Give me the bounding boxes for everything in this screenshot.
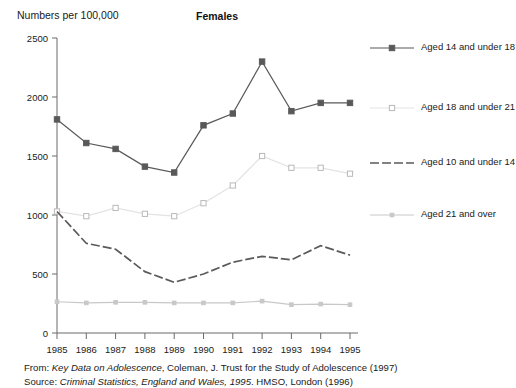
data-point-marker [142, 211, 147, 216]
data-point-marker [260, 153, 265, 158]
data-point-marker [172, 170, 177, 175]
data-point-marker [230, 111, 235, 116]
svg-text:1990: 1990 [193, 344, 214, 355]
footnote-source-line-2: Source: Criminal Statistics, England and… [24, 375, 494, 388]
data-point-marker [348, 303, 352, 307]
legend-swatch-icon [370, 100, 414, 112]
data-point-marker [84, 140, 89, 145]
data-point-marker [85, 301, 89, 305]
svg-text:1988: 1988 [134, 344, 155, 355]
footnote-2-prefix: Source: [24, 376, 60, 387]
chart-page: Numbers per 100,000 Females 050010001500… [0, 0, 516, 388]
data-point-marker [201, 123, 206, 128]
series-line [57, 156, 350, 216]
data-point-marker [143, 301, 147, 305]
legend-item-1[interactable]: Aged 14 and under 18 [370, 38, 515, 54]
data-point-marker [318, 165, 323, 170]
x-axis-ticks: 1985198619871988198919901991199219931994… [46, 333, 360, 355]
data-point-marker [54, 117, 59, 122]
data-point-marker [172, 214, 177, 219]
data-point-marker [319, 302, 323, 306]
svg-text:1986: 1986 [76, 344, 97, 355]
chart-axes [57, 38, 358, 333]
svg-text:1992: 1992 [252, 344, 273, 355]
svg-text:500: 500 [32, 269, 48, 280]
footnote-source-line-1: From: Key Data on Adolescence, Coleman, … [24, 361, 494, 375]
svg-text:2000: 2000 [27, 92, 48, 103]
data-point-marker [289, 108, 294, 113]
series-3 [57, 211, 350, 282]
footnote-block: From: Key Data on Adolescence, Coleman, … [24, 361, 494, 388]
svg-text:0: 0 [43, 328, 48, 339]
svg-text:2500: 2500 [27, 33, 48, 44]
data-point-marker [113, 146, 118, 151]
legend-item-2[interactable]: Aged 18 and under 21 [370, 98, 515, 114]
series-2 [54, 153, 352, 218]
footnote-1-prefix: From: [24, 362, 52, 373]
legend-label: Aged 10 and under 14 [421, 156, 515, 167]
data-point-marker [347, 171, 352, 176]
svg-text:1989: 1989 [164, 344, 185, 355]
series-4 [55, 299, 352, 306]
data-point-marker [142, 164, 147, 169]
series-line [57, 211, 350, 282]
data-point-marker [172, 301, 176, 305]
legend-swatch-icon [370, 207, 414, 219]
svg-text:1993: 1993 [281, 344, 302, 355]
legend-item-4[interactable]: Aged 21 and over [370, 205, 496, 221]
data-point-marker [259, 59, 264, 64]
svg-text:1500: 1500 [27, 151, 48, 162]
legend-label: Aged 14 and under 18 [421, 41, 515, 52]
data-point-marker [202, 301, 206, 305]
data-point-marker [84, 214, 89, 219]
footnote-2-title: Criminal Statistics, England and Wales, … [60, 376, 251, 387]
data-point-marker [230, 183, 235, 188]
footnote-1-suffix: , Coleman, J. Trust for the Study of Ado… [162, 362, 398, 373]
legend-label: Aged 18 and under 21 [421, 101, 515, 112]
legend-swatch-icon [370, 155, 414, 167]
data-point-marker [289, 165, 294, 170]
data-point-marker [347, 100, 352, 105]
legend-label: Aged 21 and over [421, 208, 496, 219]
series-line [57, 62, 350, 173]
series-1 [54, 59, 352, 175]
legend-swatch-icon [370, 40, 414, 52]
line-chart-plot: 0500100015002000250019851986198719881989… [0, 0, 516, 388]
data-point-marker [231, 301, 235, 305]
data-point-marker [201, 201, 206, 206]
svg-text:1995: 1995 [339, 344, 360, 355]
data-point-marker [290, 303, 294, 307]
data-point-marker [260, 299, 264, 303]
svg-text:1000: 1000 [27, 210, 48, 221]
legend-item-3[interactable]: Aged 10 and under 14 [370, 153, 515, 169]
data-point-marker [114, 301, 118, 305]
svg-text:1991: 1991 [222, 344, 243, 355]
data-point-marker [318, 100, 323, 105]
footnote-1-title: Key Data on Adolescence [52, 362, 162, 373]
svg-text:1987: 1987 [105, 344, 126, 355]
svg-text:1985: 1985 [46, 344, 67, 355]
footnote-2-suffix: . HMSO, London (1996) [251, 376, 353, 387]
svg-text:1994: 1994 [310, 344, 331, 355]
data-point-marker [55, 300, 59, 304]
data-point-marker [113, 205, 118, 210]
y-axis-ticks: 05001000150020002500 [27, 33, 57, 339]
